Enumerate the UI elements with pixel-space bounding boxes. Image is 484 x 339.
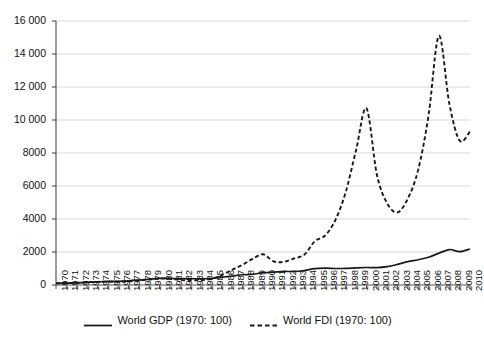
legend-swatch-dashed-icon [250,316,278,325]
x-axis-tick-label: 1997 [339,270,349,291]
x-axis-tick-label: 2004 [412,270,422,291]
legend-label-world-gdp: World GDP (1970: 100) [117,314,232,326]
x-axis-tick-label: 2007 [443,270,453,291]
legend-item-world-gdp: World GDP (1970: 100) [84,314,232,326]
legend-label-world-fdi: World FDI (1970: 100) [283,314,392,326]
x-axis-tick-label: 2005 [422,270,432,291]
x-axis-tick-label: 1982 [184,270,194,291]
y-axis-tick-label: 2000 [2,246,46,257]
x-axis-tick-label: 1998 [350,270,360,291]
y-axis-tick-label: 4000 [2,213,46,224]
x-axis-tick-label: 2003 [402,270,412,291]
legend-item-world-fdi: World FDI (1970: 100) [250,314,392,326]
x-axis-tick-label: 1994 [308,270,318,291]
x-axis-tick-label: 1979 [153,270,163,291]
x-axis-tick-label: 1988 [246,270,256,291]
chart-legend: World GDP (1970: 100) World FDI (1970: 1… [0,314,476,326]
x-axis-tick-label: 2000 [371,270,381,291]
series-line-world-fdi [56,36,470,284]
x-axis-tick-label: 1980 [164,270,174,291]
y-axis-tick-label: 8000 [2,147,46,158]
y-axis-tick-label: 10 000 [2,114,46,125]
x-axis-tick-label: 1987 [236,270,246,291]
x-axis-tick-label: 1986 [226,270,236,291]
y-axis-tick-label: 16 000 [2,15,46,26]
legend-swatch-solid-icon [84,316,112,325]
x-axis-tick-label: 2002 [391,270,401,291]
x-axis-tick-label: 1992 [288,270,298,291]
x-axis-tick-label: 1972 [81,270,91,291]
x-axis-tick-label: 1995 [319,270,329,291]
x-axis-tick-label: 1985 [215,270,225,291]
x-axis-tick-label: 1999 [360,270,370,291]
x-axis-tick-label: 1975 [112,270,122,291]
x-axis-tick-label: 1991 [277,270,287,291]
x-axis-tick-label: 1981 [174,270,184,291]
x-axis-tick-label: 2006 [433,270,443,291]
x-axis-tick-label: 1977 [132,270,142,291]
x-axis-tick-label: 1971 [70,270,80,291]
y-axis-tick-label: 6000 [2,180,46,191]
x-axis-tick-label: 1978 [143,270,153,291]
x-axis-tick-label: 2009 [464,270,474,291]
x-axis-tick-label: 1989 [257,270,267,291]
x-axis-tick-label: 2008 [453,270,463,291]
x-axis-tick-label: 1974 [101,270,111,291]
y-axis-tick-label: 12 000 [2,81,46,92]
y-axis-tick-label: 14 000 [2,48,46,59]
x-axis-tick-label: 2001 [381,270,391,291]
x-axis-tick-label: 1984 [205,270,215,291]
x-axis-tick-label: 2010 [474,270,484,291]
x-axis-tick-label: 1983 [195,270,205,291]
y-axis-tick-label: 0 [2,279,46,290]
